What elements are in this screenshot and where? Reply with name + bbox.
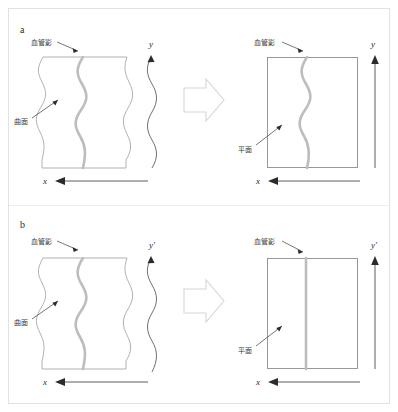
panel-b-right-y-axis-label: y': [370, 240, 378, 250]
panel-b-label: b: [20, 219, 25, 230]
panel-a-right-x-axis-label: x: [255, 176, 260, 186]
panel-a-right-y-axis-label: y: [370, 39, 375, 49]
panel-a-right-vessel-label: 血管影: [254, 38, 275, 47]
panel-a-label: a: [20, 24, 25, 35]
figure-root: a 血管影 曲面 y: [0, 0, 398, 412]
panel-b-right-plane-label: 平面: [238, 347, 252, 355]
panel-a-left-surface-label: 曲面: [14, 117, 28, 126]
panel-b-left-x-axis-label: x: [42, 377, 47, 387]
panel-a-left-x-axis-label: x: [42, 176, 47, 186]
panel-a-left-y-axis-label: y: [148, 39, 153, 49]
panel-b-left-surface-label: 曲面: [14, 318, 28, 327]
panel-b-right-x-axis-label: x: [255, 377, 260, 387]
panel-a-left-vessel-label: 血管影: [31, 38, 52, 47]
panel-a-right-plane-label: 平面: [238, 146, 252, 154]
panel-b-left-y-axis-label: y': [148, 240, 156, 250]
figure-canvas: a 血管影 曲面 y: [0, 0, 398, 412]
panel-b-left-vessel-label: 血管影: [31, 237, 52, 246]
panel-b-right-vessel-label: 血管影: [254, 237, 275, 246]
